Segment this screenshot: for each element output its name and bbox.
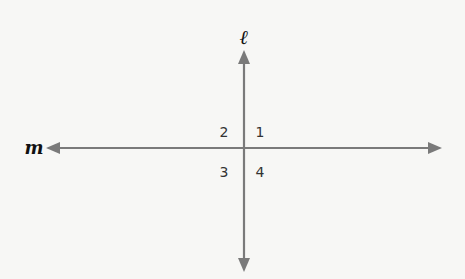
angle-3-label: 3 (220, 164, 229, 180)
line-m-left-arrowhead (46, 142, 60, 154)
angle-1-label: 1 (256, 124, 265, 140)
perpendicular-lines-diagram: ℓ m 1 2 3 4 (0, 0, 465, 279)
angle-2-label: 2 (220, 124, 229, 140)
line-m-label: m (24, 137, 43, 158)
line-m-right-arrowhead (428, 142, 442, 154)
line-l-label: ℓ (240, 25, 249, 49)
line-l-bottom-arrowhead (238, 258, 250, 272)
line-l (238, 50, 250, 272)
angle-4-label: 4 (256, 164, 265, 180)
line-l-top-arrowhead (238, 50, 250, 64)
